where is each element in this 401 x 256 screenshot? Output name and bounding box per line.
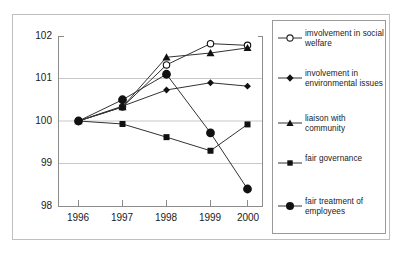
x-tick-label-1998: 1998: [146, 212, 186, 223]
data-point: [162, 70, 171, 79]
data-point: [244, 83, 251, 90]
chart-figure: 102 101 100 99 98 1996 1997 1998 1999 20…: [0, 0, 401, 256]
y-tick-label-100: 100: [22, 115, 52, 126]
legend-item-liaison-community[interactable]: liaison with community: [273, 114, 387, 134]
x-tick-label-1999: 1999: [190, 212, 230, 223]
data-point: [207, 79, 214, 86]
y-tick-label-99: 99: [22, 157, 52, 168]
diamond-marker-icon: [277, 70, 303, 82]
legend-item-fair-governance[interactable]: fair governance: [273, 154, 387, 167]
x-tick-label-1997: 1997: [102, 212, 142, 223]
data-point: [245, 121, 251, 127]
series-diamond: [75, 79, 251, 124]
y-tick-label-102: 102: [22, 30, 52, 41]
series-filled-circle: [74, 70, 252, 194]
x-tick-label-2000: 2000: [228, 212, 268, 223]
legend-label-fair-treatment: fair treatment of employees: [303, 197, 387, 217]
data-point: [163, 87, 170, 94]
x-tick-marks: [79, 200, 248, 206]
legend-item-environmental-issues[interactable]: involvement in environmental issues: [273, 69, 387, 89]
square-marker-icon: [277, 155, 303, 167]
data-point: [207, 40, 213, 46]
data-point: [243, 185, 252, 194]
data-point: [163, 62, 169, 68]
legend-item-fair-treatment[interactable]: fair treatment of employees: [273, 197, 387, 217]
legend-label-liaison-community: liaison with community: [303, 114, 387, 134]
legend-label-social-welfare: imvolvement in social welfare: [303, 29, 387, 49]
x-tick-label-1996: 1996: [58, 212, 98, 223]
series-open-circle: [75, 40, 250, 124]
legend-item-social-welfare[interactable]: imvolvement in social welfare: [273, 29, 387, 49]
data-point: [206, 129, 215, 138]
data-series-layer: [74, 40, 252, 193]
legend-label-fair-governance: fair governance: [303, 154, 387, 164]
plot-area: 102 101 100 99 98 1996 1997 1998 1999 20…: [0, 0, 268, 256]
legend-label-environmental-issues: involvement in environmental issues: [303, 69, 387, 89]
data-point: [120, 121, 126, 127]
data-point: [208, 148, 214, 154]
data-point: [118, 95, 127, 104]
series-square: [76, 118, 251, 154]
filled-circle-marker-icon: [277, 198, 303, 210]
y-tick-label-101: 101: [22, 72, 52, 83]
data-point: [164, 134, 170, 140]
gridlines: [58, 79, 263, 164]
y-tick-label-98: 98: [22, 200, 52, 211]
chart-legend: imvolvement in social welfare involvemen…: [272, 20, 386, 234]
data-point: [74, 117, 83, 126]
open-circle-marker-icon: [277, 30, 303, 42]
triangle-marker-icon: [277, 115, 303, 127]
